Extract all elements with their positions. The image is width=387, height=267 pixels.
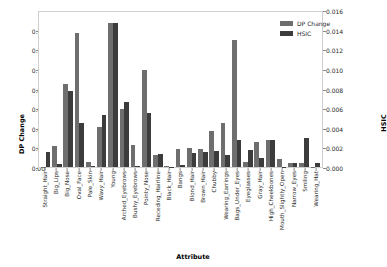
bar-group bbox=[130, 12, 141, 167]
x-tick-label: Big_Lips bbox=[53, 171, 59, 194]
bar-hsic bbox=[192, 153, 197, 167]
x-tick-label: Chubby bbox=[211, 171, 217, 192]
x-tick-label: High_Cheekbones bbox=[268, 171, 274, 221]
x-tick-label: Gray_Hair bbox=[257, 171, 263, 199]
bar-dp-change bbox=[131, 145, 136, 167]
x-tick-cell: Wearing_Hat bbox=[311, 169, 322, 239]
bar-group bbox=[107, 12, 118, 167]
bar-hsic bbox=[293, 163, 298, 167]
bar-hsic bbox=[158, 154, 163, 167]
x-tick-cell: Receding_Hairline bbox=[152, 169, 163, 239]
x-tick-cell: Gray_Hair bbox=[254, 169, 265, 239]
x-tick-label: Big_Nose bbox=[64, 171, 70, 197]
bar-group bbox=[62, 12, 73, 167]
x-tick-label: Arched_Eyebrows bbox=[121, 171, 127, 220]
x-tick-cell: Big_Nose bbox=[62, 169, 73, 239]
x-tick-label: Bushy_Eyebrows bbox=[132, 171, 138, 218]
bar-hsic bbox=[124, 102, 129, 167]
bar-group bbox=[40, 12, 51, 167]
bar-group bbox=[51, 12, 62, 167]
x-tick-label: Young bbox=[110, 171, 116, 188]
x-tick-label: Narrow_Eyes bbox=[291, 171, 297, 207]
bar-group bbox=[220, 12, 231, 167]
x-tick-label: Pointy_Nose bbox=[143, 171, 149, 205]
x-tick-label: Wearing_Earrings bbox=[223, 171, 229, 220]
x-tick-label: Mouth_Slightly_Open bbox=[279, 171, 285, 230]
bar-group bbox=[141, 12, 152, 167]
y-tick-label-right: 0.016 bbox=[326, 8, 343, 15]
y-tick-label-right: 0.010 bbox=[326, 66, 343, 73]
x-axis-title: Attribute bbox=[0, 253, 386, 261]
bar-hsic bbox=[46, 152, 51, 167]
x-tick-cell: Bushy_Eyebrows bbox=[130, 169, 141, 239]
y-axis-left-title: DP Change bbox=[18, 114, 26, 154]
x-tick-cell: Wavy_Hair bbox=[96, 169, 107, 239]
bar-group bbox=[197, 12, 208, 167]
bar-hsic bbox=[180, 165, 185, 167]
y-tick-mark-right bbox=[323, 70, 326, 71]
x-tick-label: Eyeglasses bbox=[245, 171, 251, 202]
chart-legend: DP Change HSIC bbox=[277, 18, 333, 39]
bar-group bbox=[164, 12, 175, 167]
x-tick-cell: Black_Hair bbox=[163, 169, 174, 239]
y-tick-mark-right bbox=[323, 11, 326, 12]
bar-group bbox=[96, 12, 107, 167]
bar-group bbox=[265, 12, 276, 167]
legend-item-dp-change: DP Change bbox=[280, 20, 330, 27]
bar-group bbox=[209, 12, 220, 167]
x-tick-cell: Bags_Under_Eyes bbox=[231, 169, 242, 239]
legend-swatch-hsic bbox=[280, 31, 293, 36]
bar-hsic bbox=[68, 91, 73, 167]
bar-hsic bbox=[79, 123, 84, 167]
bar-group bbox=[231, 12, 242, 167]
bar-group bbox=[253, 12, 264, 167]
legend-swatch-dp-change bbox=[280, 21, 293, 26]
x-tick-cell: Pale_Skin bbox=[84, 169, 95, 239]
y-tick-label-right: 0.002 bbox=[326, 145, 343, 152]
bar-hsic bbox=[147, 113, 152, 167]
bar-hsic bbox=[135, 166, 140, 167]
x-tick-cell: Chubby bbox=[209, 169, 220, 239]
bar-hsic bbox=[248, 150, 253, 167]
legend-item-hsic: HSIC bbox=[280, 30, 330, 37]
x-axis-ticks: Straight_HairBig_LipsBig_NoseOval_FacePa… bbox=[38, 169, 323, 239]
x-tick-cell: Smiling bbox=[299, 169, 310, 239]
x-tick-cell: Wearing_Earrings bbox=[220, 169, 231, 239]
x-tick-label: Bangs bbox=[177, 171, 183, 188]
bar-group bbox=[74, 12, 85, 167]
bar-group bbox=[242, 12, 253, 167]
bar-group bbox=[119, 12, 130, 167]
x-tick-cell: High_Cheekbones bbox=[265, 169, 276, 239]
x-tick-label: Oval_Face bbox=[76, 171, 82, 199]
x-tick-cell: Eyeglasses bbox=[243, 169, 254, 239]
x-tick-cell: Straight_Hair bbox=[39, 169, 50, 239]
bar-group bbox=[186, 12, 197, 167]
bar-hsic bbox=[91, 166, 96, 167]
x-tick-cell: Blond_Hair bbox=[186, 169, 197, 239]
y-tick-mark-right bbox=[323, 90, 326, 91]
bar-hsic bbox=[102, 115, 107, 167]
bar-hsic bbox=[203, 152, 208, 167]
bar-hsic bbox=[57, 164, 62, 167]
y-tick-mark-right bbox=[323, 129, 326, 130]
x-tick-label: Straight_Hair bbox=[42, 171, 48, 208]
x-tick-label: Bags_Under_Eyes bbox=[234, 171, 240, 220]
y-tick-label-right: 0.012 bbox=[326, 47, 343, 54]
y-tick-mark-right bbox=[323, 109, 326, 110]
x-tick-label: Brown_Hair bbox=[200, 171, 206, 203]
bar-hsic bbox=[304, 138, 309, 167]
x-tick-label: Black_Hair bbox=[166, 171, 172, 200]
y-tick-mark-right bbox=[323, 148, 326, 149]
x-tick-cell: Arched_Eyebrows bbox=[118, 169, 129, 239]
bar-hsic bbox=[113, 23, 118, 167]
bar-group bbox=[175, 12, 186, 167]
y-tick-label-right: 0.004 bbox=[326, 125, 343, 132]
x-tick-cell: Pointy_Nose bbox=[141, 169, 152, 239]
x-tick-cell: Big_Lips bbox=[50, 169, 61, 239]
y-tick-label-right: 0.008 bbox=[326, 86, 343, 93]
bar-hsic bbox=[315, 163, 320, 167]
x-tick-label: Receding_Hairline bbox=[155, 171, 161, 221]
bar-group bbox=[85, 12, 96, 167]
x-tick-label: Wavy_Hair bbox=[98, 171, 104, 201]
